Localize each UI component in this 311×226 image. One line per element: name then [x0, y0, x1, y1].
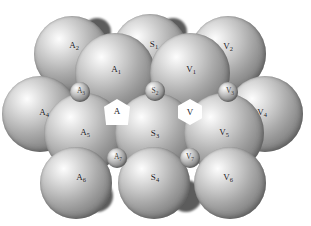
label-base: V: [226, 86, 231, 95]
label-subscript: 6: [230, 176, 233, 183]
sphere-label-s4: S4: [151, 173, 159, 182]
sphere-label-s1: S1: [150, 40, 158, 49]
label-subscript: 3: [231, 90, 234, 96]
sphere-label-v6: V6: [223, 173, 233, 182]
label-subscript: 1: [118, 68, 121, 75]
label-base: A: [111, 64, 118, 74]
label-subscript: 2: [230, 45, 233, 52]
label-subscript: 5: [87, 131, 90, 138]
label-base: A: [114, 152, 119, 161]
label-base: A: [69, 40, 76, 50]
sphere-label-s3: S3: [151, 129, 159, 138]
label-base: A: [77, 86, 82, 95]
label-base: V: [186, 152, 191, 161]
label-base: S: [151, 172, 156, 182]
sphere-label-a5: A5: [80, 128, 90, 137]
label-subscript: 2: [156, 90, 159, 96]
label-subscript: 3: [82, 90, 85, 96]
label-subscript: 2: [76, 44, 79, 51]
sphere-label-a4: A4: [39, 108, 49, 117]
label-subscript: 7: [191, 156, 194, 162]
label-subscript: 6: [83, 176, 86, 183]
sphere-label-v7: V7: [186, 153, 194, 161]
label-subscript: 4: [46, 111, 49, 118]
label-layer: A2S1V2A1V1A4V4A5S3V5A6S4V6A3S2V3A7V7VA: [0, 0, 311, 226]
vacancy-label-v: V: [187, 108, 194, 117]
label-base: V: [223, 172, 230, 182]
label-base: V: [223, 41, 230, 51]
label-base: V: [186, 64, 193, 74]
sphere-label-s2: S2: [152, 87, 159, 95]
label-base: V: [219, 127, 226, 137]
sphere-label-v3: V3: [226, 87, 234, 95]
vacancy-label-a: A: [114, 107, 121, 116]
sphere-label-a2: A2: [69, 41, 79, 50]
sphere-label-a1: A1: [111, 65, 121, 74]
label-subscript: 3: [156, 132, 159, 139]
label-base: S: [152, 86, 156, 95]
sphere-label-v5: V5: [219, 128, 229, 137]
label-base: V: [257, 107, 264, 117]
label-base: A: [39, 107, 46, 117]
label-base: A: [114, 106, 121, 116]
label-base: A: [80, 127, 87, 137]
sphere-packing-figure: A2S1V2A1V1A4V4A5S3V5A6S4V6A3S2V3A7V7VA: [0, 0, 311, 226]
label-subscript: 4: [156, 176, 159, 183]
sphere-label-v1: V1: [186, 65, 196, 74]
label-subscript: 7: [119, 156, 122, 162]
sphere-label-v4: V4: [257, 108, 267, 117]
label-subscript: 1: [193, 68, 196, 75]
label-base: A: [76, 172, 83, 182]
sphere-label-v2: V2: [223, 42, 233, 51]
sphere-label-a6: A6: [76, 173, 86, 182]
label-base: S: [151, 128, 156, 138]
sphere-label-a3: A3: [77, 87, 85, 95]
label-subscript: 5: [226, 131, 229, 138]
label-subscript: 4: [264, 111, 267, 118]
label-base: S: [150, 39, 155, 49]
sphere-label-a7: A7: [114, 153, 122, 161]
label-subscript: 1: [155, 43, 158, 50]
label-base: V: [187, 107, 194, 117]
